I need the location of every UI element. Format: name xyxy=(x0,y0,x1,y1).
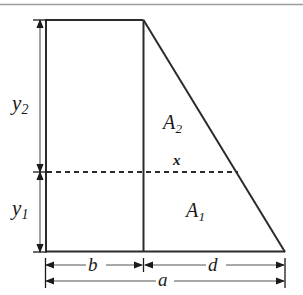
region-label-a1-sub: 1 xyxy=(198,209,205,224)
trapezoid-outline xyxy=(45,19,285,252)
arrowhead-left-b xyxy=(45,261,54,268)
dimension-label-y1-sub: 1 xyxy=(22,207,29,222)
dimension-label-b: b xyxy=(88,255,98,274)
dimension-label-y1-base: y xyxy=(12,196,21,220)
figure-canvas xyxy=(0,0,303,295)
dimension-label-y2-base: y xyxy=(12,91,21,115)
region-label-a1: A1 xyxy=(186,200,205,220)
arrowhead-right-a xyxy=(276,277,285,284)
region-label-a2: A2 xyxy=(163,112,182,132)
dimension-label-d: d xyxy=(208,255,218,274)
region-label-a2-sub: 2 xyxy=(175,121,182,136)
dimension-label-a: a xyxy=(158,270,168,289)
arrowhead-left-d xyxy=(144,261,153,268)
geometry-figure: y2 y1 A2 A1 x b d a xyxy=(0,0,303,295)
dimension-label-y1: y1 xyxy=(12,198,28,219)
arrowhead-right-b xyxy=(134,261,143,268)
dimension-label-y2: y2 xyxy=(12,93,28,114)
region-label-a2-base: A xyxy=(163,111,175,133)
arrowhead-left-a xyxy=(45,277,54,284)
dimension-label-y2-sub: 2 xyxy=(22,102,29,117)
triangle-hypotenuse xyxy=(144,20,286,252)
arrowhead-right-d xyxy=(276,261,285,268)
region-label-a1-base: A xyxy=(186,199,198,221)
vertical-dimension-line xyxy=(33,19,47,253)
point-label-x: x xyxy=(173,153,181,168)
